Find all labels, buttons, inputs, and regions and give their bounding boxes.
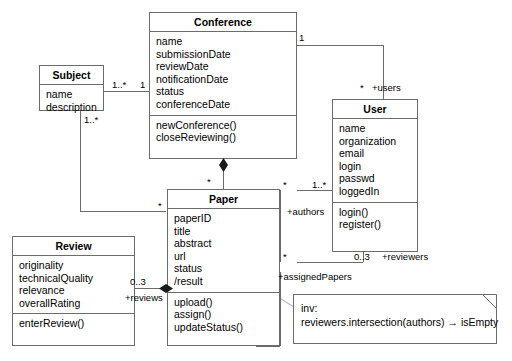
class-user-operations: login() register() [333,202,417,235]
multiplicity-conference-user-user: * [360,83,364,93]
class-conference-attributes: name submissionDate reviewDate notificat… [150,32,296,115]
attribute: overallRating [19,297,134,310]
class-paper[interactable]: Paper paperID title abstract url status … [167,189,280,346]
attribute: email [339,147,417,160]
multiplicity-subject-paper-subject: 1..* [84,115,98,125]
attribute: abstract [174,237,279,250]
class-conference-name: Conference [150,13,296,32]
role-assigned-papers: +assignedPapers [278,272,352,282]
line-paper-reviewers-horizontal [297,262,363,263]
operation: register() [339,218,417,231]
multiplicity-conference-user-conference: 1 [299,33,304,43]
attribute: name [339,122,417,135]
line-paper-assigned-vertical [280,190,281,262]
class-conference-operations: newConference() closeReviewing() [150,115,296,148]
multiplicity-conference-paper: * [207,177,211,187]
role-authors: +authors [287,207,324,217]
class-subject[interactable]: Subject name description [39,65,104,111]
role-reviews: +reviews [125,293,163,303]
attribute: conferenceDate [156,98,296,111]
operation: updateStatus() [174,321,279,334]
attribute: notificationDate [156,73,296,86]
class-review-attributes: originality technicalQuality relevance o… [13,256,134,313]
attribute: paperID [174,212,279,225]
attribute: passwd [339,172,417,185]
line-assigned-bottom [256,346,280,347]
attribute: status [174,262,279,275]
operation: assign() [174,308,279,321]
class-user[interactable]: User name organization email login passw… [332,99,418,252]
class-paper-operations: upload() assign() updateStatus() [168,292,279,338]
operation: enterReview() [19,317,134,330]
multiplicity-review-paper: 0..3 [130,277,146,287]
note-line-1: inv: [301,301,489,315]
note-content: inv: reviewers.intersection(authors) → i… [293,294,497,329]
attribute: url [174,250,279,263]
attribute: title [174,225,279,238]
line-subject-paper-vertical [80,110,81,211]
attribute: relevance [19,284,134,297]
multiplicity-subject-conference-conference: 1 [140,80,145,90]
class-user-attributes: name organization email login passwd log… [333,119,417,202]
multiplicity-paper-reviewers-user: 0..3 [354,252,370,262]
composition-diamond-conference-paper [219,158,228,172]
class-user-name: User [333,100,417,119]
attribute: technicalQuality [19,272,134,285]
attribute: description [46,101,103,114]
attribute: status [156,85,296,98]
line-conference-user-horizontal [297,45,383,46]
multiplicity-paper-authors-paper: * [283,180,287,190]
class-review[interactable]: Review originality technicalQuality rele… [12,236,135,346]
operation: newConference() [156,119,296,132]
class-review-name: Review [13,237,134,256]
multiplicity-paper-reviewers-paper: * [283,252,287,262]
uml-class-diagram: 1..* 1 1..* * 1 * +users * * 1..* +autho… [0,0,512,361]
ocl-constraint-note[interactable]: inv: reviewers.intersection(authors) → i… [293,294,497,344]
attribute: name [156,35,296,48]
role-users: +users [372,83,401,93]
line-assigned-down [280,272,281,346]
operation: upload() [174,296,279,309]
class-paper-name: Paper [168,190,279,209]
attribute: login [339,160,417,173]
class-paper-attributes: paperID title abstract url status /resul… [168,209,279,292]
attribute: submissionDate [156,48,296,61]
multiplicity-subject-conference-subject: 1..* [112,80,126,90]
class-subject-name: Subject [40,66,103,85]
line-subject-conference [104,91,149,92]
attribute: reviewDate [156,60,296,73]
class-conference[interactable]: Conference name submissionDate reviewDat… [149,12,297,159]
attribute: originality [19,259,134,272]
attribute-derived: /result [174,275,279,288]
attribute: name [46,88,103,101]
operation: closeReviewing() [156,131,296,144]
operation: login() [339,206,417,219]
role-reviewers: +reviewers [382,252,428,262]
multiplicity-paper-authors-user: 1..* [312,180,326,190]
line-paper-authors-horizontal [297,190,332,191]
class-review-operations: enterReview() [13,313,134,334]
attribute: loggedIn [339,185,417,198]
class-subject-attributes: name description [40,85,103,117]
multiplicity-subject-paper-paper: * [158,201,162,211]
attribute: organization [339,135,417,148]
line-subject-paper-horizontal [80,211,166,212]
note-line-2: reviewers.intersection(authors) → isEmpt… [301,315,489,329]
